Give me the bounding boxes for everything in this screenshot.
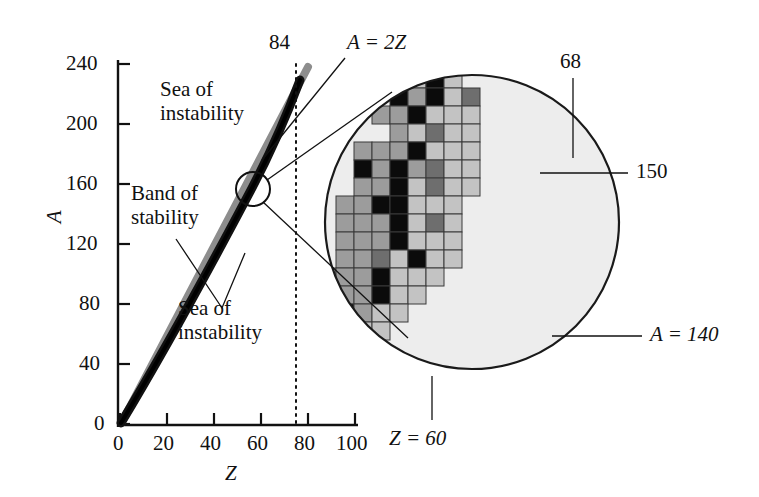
- nuclide-cell: [354, 232, 372, 250]
- y-axis-ticks: [118, 64, 130, 424]
- nuclide-cell: [462, 142, 480, 160]
- nuclide-cell: [318, 340, 336, 358]
- z84-label: 84: [269, 31, 290, 55]
- figure-root: 240 200 160 120 80 40 0 0 20 40 60 80 10…: [0, 0, 759, 497]
- nuclide-cell: [354, 268, 372, 286]
- nuclide-cell: [444, 70, 462, 88]
- nuclide-cell: [282, 286, 300, 304]
- nuclide-cell: [408, 232, 426, 250]
- nuclide-cell: [426, 88, 444, 106]
- nuclide-cell: [318, 286, 336, 304]
- nuclide-cell: [462, 124, 480, 142]
- nuclide-cell: [426, 214, 444, 232]
- nuclide-cell: [426, 106, 444, 124]
- nuclide-cell: [282, 340, 300, 358]
- nuclide-cell: [426, 124, 444, 142]
- nuclide-cell: [372, 268, 390, 286]
- nuclide-cell: [354, 142, 372, 160]
- nuclide-cell: [444, 196, 462, 214]
- x-axis-ticks: [120, 413, 355, 425]
- nuclide-cell: [426, 142, 444, 160]
- nuclide-cell: [390, 286, 408, 304]
- nuclide-cell: [408, 88, 426, 106]
- y-tick-160: 160: [66, 172, 98, 196]
- nuclide-cell: [408, 178, 426, 196]
- y-tick-120: 120: [66, 232, 98, 256]
- nuclide-cell: [300, 322, 318, 340]
- nuclide-cell: [408, 214, 426, 232]
- nuclide-cell: [444, 88, 462, 106]
- nuclide-cell: [390, 304, 408, 322]
- nuclide-cell: [318, 322, 336, 340]
- nuclide-cell: [390, 214, 408, 232]
- nuclide-cell: [426, 178, 444, 196]
- x-tick-80: 80: [294, 432, 315, 456]
- nuclide-cell: [354, 160, 372, 178]
- nuclide-cell: [390, 70, 408, 88]
- nuclide-cell: [354, 340, 372, 358]
- nuclide-cell: [372, 178, 390, 196]
- nuclide-cell: [336, 250, 354, 268]
- nuclide-cell: [444, 178, 462, 196]
- nuclide-cell: [282, 268, 300, 286]
- nuclide-cell: [462, 88, 480, 106]
- nuclide-cell: [300, 268, 318, 286]
- nuclide-cell: [300, 286, 318, 304]
- nuclide-cell: [408, 196, 426, 214]
- nuclide-cell: [372, 250, 390, 268]
- nuclide-cell: [390, 160, 408, 178]
- nuclide-cell: [372, 142, 390, 160]
- nuclide-cell: [372, 160, 390, 178]
- nuclide-cell: [354, 322, 372, 340]
- nuclide-cell: [408, 160, 426, 178]
- nuclide-cell: [318, 358, 336, 376]
- nuclide-cell: [444, 106, 462, 124]
- nuclide-cell: [336, 340, 354, 358]
- nuclide-cell: [444, 214, 462, 232]
- inset-n68-label: 68: [560, 50, 581, 74]
- nuclide-cell: [426, 196, 444, 214]
- nuclide-cell: [408, 106, 426, 124]
- nuclide-cell: [336, 358, 354, 376]
- nuclide-cell: [462, 160, 480, 178]
- nuclide-cell: [336, 232, 354, 250]
- sea-of-instability-bottom-label: Sea of instability: [178, 297, 262, 344]
- nuclide-cell: [462, 178, 480, 196]
- nuclide-cell: [336, 322, 354, 340]
- nuclide-cell: [300, 304, 318, 322]
- nuclide-cell: [444, 160, 462, 178]
- nuclide-cell: [354, 196, 372, 214]
- nuclide-cell: [336, 214, 354, 232]
- nuclide-cell: [390, 142, 408, 160]
- nuclide-cell: [408, 250, 426, 268]
- y-axis-label: A: [43, 210, 67, 223]
- nuclide-cell: [354, 250, 372, 268]
- nuclide-cell: [390, 268, 408, 286]
- nuclide-cell: [354, 178, 372, 196]
- y-tick-80: 80: [79, 292, 100, 316]
- x-tick-60: 60: [247, 432, 268, 456]
- nuclide-cell: [372, 106, 390, 124]
- nuclide-cell: [372, 214, 390, 232]
- nuclide-cell: [372, 196, 390, 214]
- nuclide-cell: [336, 196, 354, 214]
- nuclide-cell: [426, 160, 444, 178]
- nuclide-cell: [300, 340, 318, 358]
- x-tick-20: 20: [153, 432, 174, 456]
- nuclide-cell: [318, 304, 336, 322]
- inset-z60-label: Z = 60: [389, 427, 446, 451]
- a-equals-2z-label: A = 2Z: [347, 31, 406, 55]
- nuclide-cell: [390, 232, 408, 250]
- x-tick-0: 0: [113, 432, 124, 456]
- nuclide-cell: [426, 232, 444, 250]
- y-tick-0: 0: [94, 412, 105, 436]
- nuclide-cell: [282, 304, 300, 322]
- nuclide-cell: [300, 358, 318, 376]
- nuclide-cell: [444, 250, 462, 268]
- nuclide-cell: [408, 142, 426, 160]
- nuclide-cell: [354, 214, 372, 232]
- nuclide-cell: [426, 250, 444, 268]
- inset-a150-label: 150: [636, 160, 668, 184]
- x-tick-100: 100: [336, 432, 368, 456]
- nuclide-cell: [408, 286, 426, 304]
